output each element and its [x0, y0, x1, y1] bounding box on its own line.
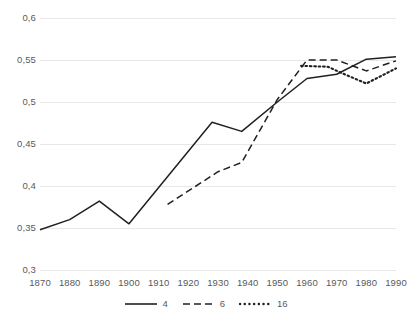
- x-tick-label: 1930: [207, 278, 229, 288]
- x-tick-label: 1950: [267, 278, 289, 288]
- legend-item-4[interactable]: 4: [124, 299, 167, 309]
- legend-swatch-solid: [124, 299, 158, 309]
- x-tick-label: 1900: [118, 278, 140, 288]
- x-tick-label: 1990: [385, 278, 407, 288]
- line-chart: 0,30,350,40,450,50,550,6 187018801890190…: [0, 0, 412, 325]
- legend-swatch-dashed: [182, 299, 216, 309]
- legend-label: 6: [220, 299, 225, 309]
- x-tick-label: 1920: [178, 278, 200, 288]
- x-tick-label: 1940: [237, 278, 259, 288]
- x-tick-label: 1910: [148, 278, 170, 288]
- x-tick-label: 1970: [326, 278, 348, 288]
- x-axis: 1870188018901900191019201930194019501960…: [0, 0, 412, 325]
- legend-item-6[interactable]: 6: [182, 299, 225, 309]
- legend-label: 16: [277, 299, 288, 309]
- x-tick-label: 1880: [59, 278, 81, 288]
- x-tick-label: 1980: [356, 278, 378, 288]
- legend-item-16[interactable]: 16: [239, 299, 288, 309]
- legend-label: 4: [162, 299, 167, 309]
- chart-legend: 4616: [0, 299, 412, 309]
- legend-swatch-dotted: [239, 299, 273, 309]
- x-tick-label: 1870: [29, 278, 51, 288]
- x-tick-label: 1890: [89, 278, 111, 288]
- x-tick-label: 1960: [296, 278, 318, 288]
